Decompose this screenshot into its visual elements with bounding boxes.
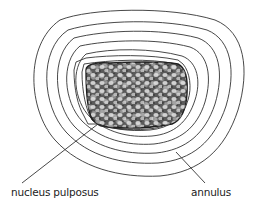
nucleus-pulposus-label: nucleus pulposus bbox=[11, 186, 99, 198]
disc-diagram bbox=[0, 0, 258, 212]
annulus-leader-line bbox=[176, 152, 205, 183]
nucleus-pulposus bbox=[86, 62, 187, 128]
nucleus-leader-line bbox=[22, 124, 98, 183]
annulus-label: annulus bbox=[191, 186, 231, 198]
